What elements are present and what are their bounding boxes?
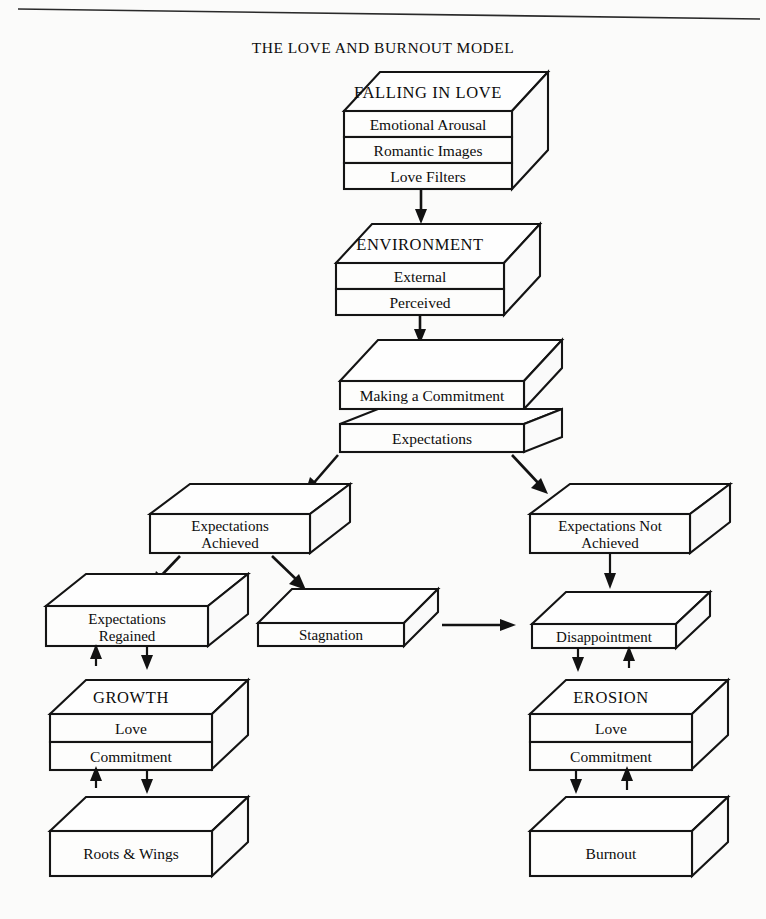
edge-achieved-to-stagnation: [272, 556, 306, 590]
expectations-not-achieved-line-1: Expectations Not: [558, 518, 663, 534]
edge-regained-growth: [90, 644, 153, 670]
node-expectations-achieved: Expectations Achieved: [150, 484, 350, 553]
falling-in-love-layer-1-label: Emotional Arousal: [370, 116, 487, 133]
edge-not-achieved-to-disappointment: [604, 553, 616, 589]
page-top-rule: [18, 9, 760, 19]
commitment-layer-1-label: Making a Commitment: [360, 387, 505, 404]
node-growth: GROWTH Love Commitment: [50, 680, 248, 770]
edge-stagnation-to-disappointment: [442, 619, 516, 631]
environment-layer-1-label: External: [394, 268, 447, 285]
environment-header: ENVIRONMENT: [356, 235, 484, 254]
burnout-label: Burnout: [586, 845, 638, 862]
node-erosion: EROSION Love Commitment: [530, 680, 728, 770]
node-stagnation: Stagnation: [258, 589, 438, 646]
stagnation-label: Stagnation: [299, 627, 364, 643]
falling-in-love-layer-3-label: Love Filters: [390, 168, 465, 185]
love-and-burnout-diagram: THE LOVE AND BURNOUT MODEL FALLING IN LO…: [0, 0, 766, 919]
expectations-achieved-line-1: Expectations: [191, 518, 269, 534]
edge-disappointment-erosion: [572, 646, 635, 672]
diagram-page: THE LOVE AND BURNOUT MODEL FALLING IN LO…: [0, 0, 766, 919]
page-title: THE LOVE AND BURNOUT MODEL: [252, 39, 514, 56]
growth-header: GROWTH: [93, 688, 169, 707]
node-roots-and-wings: Roots & Wings: [50, 797, 248, 876]
erosion-header: EROSION: [573, 688, 649, 707]
node-environment: ENVIRONMENT External Perceived: [336, 224, 540, 315]
erosion-layer-1-label: Love: [595, 720, 627, 737]
expectations-not-achieved-line-2: Achieved: [581, 535, 639, 551]
roots-and-wings-label: Roots & Wings: [83, 845, 179, 862]
environment-layer-2-label: Perceived: [389, 294, 450, 311]
expectations-regained-line-2: Regained: [99, 628, 156, 644]
expectations-regained-line-1: Expectations: [88, 611, 166, 627]
disappointment-label: Disappointment: [556, 629, 653, 645]
growth-layer-2-label: Commitment: [90, 748, 173, 765]
growth-layer-1-label: Love: [115, 720, 147, 737]
expectations-achieved-line-2: Achieved: [201, 535, 259, 551]
node-expectations-regained: Expectations Regained: [46, 574, 248, 646]
node-commitment: Making a Commitment Expectations: [340, 340, 562, 452]
node-disappointment: Disappointment: [532, 592, 710, 648]
erosion-layer-2-label: Commitment: [570, 748, 653, 765]
edge-commitment-to-not-achieved: [512, 455, 548, 494]
node-falling-in-love: FALLING IN LOVE Emotional Arousal Romant…: [344, 72, 548, 189]
edge-falling-to-environment: [415, 189, 427, 224]
node-burnout: Burnout: [530, 797, 728, 876]
falling-in-love-header: FALLING IN LOVE: [354, 83, 502, 102]
node-expectations-not-achieved: Expectations Not Achieved: [530, 484, 730, 553]
falling-in-love-layer-2-label: Romantic Images: [374, 142, 483, 159]
commitment-layer-2-label: Expectations: [392, 430, 472, 447]
